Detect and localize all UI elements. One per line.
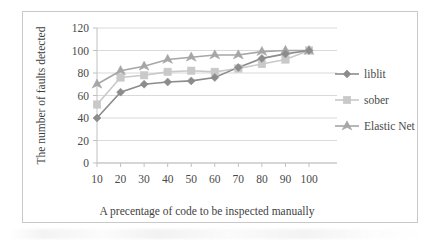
- x-tick-label-30: 30: [138, 173, 150, 185]
- y-tick-label-100: 100: [72, 45, 90, 57]
- datapoint-sober-50: [187, 67, 195, 75]
- x-axis-title: A precentage of code to be inspected man…: [100, 205, 315, 218]
- legend-label-elastic-net: Elastic Net: [364, 120, 416, 132]
- x-tick-label-20: 20: [115, 173, 127, 185]
- legend-marker-liblit: [343, 70, 351, 78]
- y-tick-label-40: 40: [78, 112, 90, 124]
- scan-artifact-smudge: [10, 229, 430, 239]
- axis-lines-group: [93, 28, 337, 167]
- y-tick-label-0: 0: [83, 157, 89, 169]
- chart-figure: 020406080100120 102030405060708090100 li…: [22, 11, 418, 223]
- chart-legend: liblitsoberElastic Net: [335, 68, 416, 132]
- datapoint-liblit-50: [187, 77, 195, 85]
- legend-marker-sober: [343, 96, 351, 104]
- chart-plot: 020406080100120 102030405060708090100 li…: [23, 12, 417, 222]
- datapoint-sober-30: [140, 72, 148, 80]
- x-tick-label-40: 40: [162, 173, 174, 185]
- gridlines-group: [97, 28, 337, 163]
- datapoint-sober-40: [164, 68, 172, 76]
- datapoint-liblit-30: [140, 80, 148, 88]
- datapoint-liblit-40: [164, 78, 172, 86]
- x-tick-label-50: 50: [185, 173, 197, 185]
- x-tick-label-80: 80: [256, 173, 268, 185]
- datapoint-sober-20: [117, 74, 125, 82]
- y-tick-label-60: 60: [78, 90, 90, 102]
- series-lines-group: [97, 51, 309, 119]
- y-axis-title: The number of faults detected: [35, 26, 47, 164]
- x-axis-tick-labels: 102030405060708090100: [91, 173, 318, 185]
- y-tick-label-120: 120: [72, 22, 90, 34]
- x-tick-label-10: 10: [91, 173, 103, 185]
- y-tick-label-20: 20: [78, 135, 90, 147]
- series-line-sober: [97, 51, 309, 105]
- x-tick-label-100: 100: [300, 173, 318, 185]
- legend-label-liblit: liblit: [364, 68, 387, 80]
- x-tick-label-90: 90: [280, 173, 292, 185]
- y-axis-tick-labels: 020406080100120: [72, 22, 90, 169]
- y-tick-label-80: 80: [78, 67, 90, 79]
- datapoint-sober-10: [93, 101, 101, 109]
- legend-label-sober: sober: [364, 94, 389, 106]
- x-tick-label-60: 60: [209, 173, 221, 185]
- x-tick-label-70: 70: [233, 173, 245, 185]
